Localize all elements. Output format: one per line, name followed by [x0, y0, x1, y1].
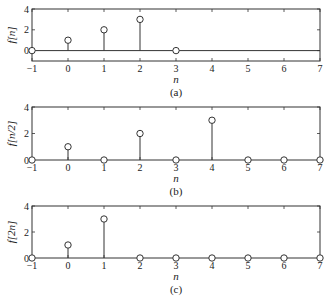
stem-marker [173, 47, 179, 53]
x-tick-label: 5 [246, 63, 251, 74]
x-tick-label: 0 [66, 162, 71, 173]
x-tick-label: 2 [138, 162, 143, 173]
x-tick-label: 7 [318, 63, 323, 74]
y-axis-label: f[2n] [5, 221, 17, 244]
stem-marker [317, 255, 323, 261]
y-axis-label: f[n] [5, 26, 17, 43]
x-tick-label: 0 [66, 260, 71, 271]
y-tick-label: 2 [24, 128, 29, 139]
stem-plot-panel-a: −101234567024nf[n](a) [5, 4, 323, 100]
stem-marker [137, 255, 143, 261]
x-axis-label: n [173, 172, 179, 184]
x-tick-label: 4 [210, 63, 215, 74]
axes-box [32, 206, 320, 258]
stem-marker [245, 157, 251, 163]
y-tick-label: 4 [24, 4, 29, 15]
y-tick-label: 0 [24, 155, 29, 166]
stem-marker [209, 255, 215, 261]
x-tick-label: 2 [138, 63, 143, 74]
stem-marker [137, 16, 143, 22]
stem-marker [173, 157, 179, 163]
stem-marker [29, 255, 35, 261]
stem-marker [65, 37, 71, 43]
y-tick-label: 2 [24, 227, 29, 238]
stem-marker [65, 144, 71, 150]
stem-marker [245, 255, 251, 261]
y-tick-label: 0 [24, 253, 29, 264]
stem-plot-panel-b: −101234567024nf[n/2](b) [5, 102, 323, 199]
x-tick-label: 0 [66, 63, 71, 74]
stem-plot-panel-c: −101234567024nf[2n](c) [5, 201, 323, 297]
y-tick-label: 4 [24, 201, 29, 212]
stem-marker [101, 216, 107, 222]
stem-marker [29, 157, 35, 163]
y-tick-label: 0 [24, 45, 29, 56]
stem-marker [101, 157, 107, 163]
stem-marker [209, 117, 215, 123]
x-axis-label: n [173, 73, 179, 85]
stem-marker [281, 255, 287, 261]
stem-marker [29, 47, 35, 53]
stem-marker [173, 255, 179, 261]
axes-box [32, 107, 320, 160]
y-tick-label: 4 [24, 102, 29, 113]
panel-caption: (c) [170, 283, 183, 296]
panel-caption: (a) [170, 86, 183, 99]
y-tick-label: 2 [24, 24, 29, 35]
x-tick-label: 6 [282, 63, 287, 74]
x-tick-label: 4 [210, 162, 215, 173]
stem-marker [101, 27, 107, 33]
x-tick-label: −1 [27, 63, 38, 74]
x-tick-label: 1 [102, 63, 107, 74]
stem-marker [317, 157, 323, 163]
panel-caption: (b) [170, 185, 183, 198]
stem-plot-figure: −101234567024nf[n](a)−101234567024nf[n/2… [0, 0, 325, 305]
stem-marker [65, 242, 71, 248]
x-axis-label: n [173, 270, 179, 282]
x-tick-label: 1 [102, 260, 107, 271]
stem-marker [137, 130, 143, 136]
stem-marker [281, 157, 287, 163]
y-axis-label: f[n/2] [5, 121, 17, 147]
